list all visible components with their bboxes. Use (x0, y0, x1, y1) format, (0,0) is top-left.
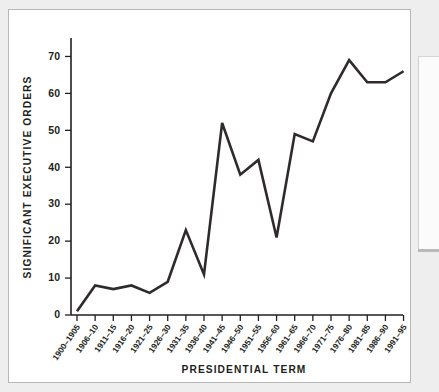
y-axis-tick-label: 30 (48, 197, 60, 209)
y-axis-title: SIGNIFICANT EXECUTIVE ORDERS (22, 76, 33, 279)
y-axis-tick-label: 10 (48, 271, 60, 283)
x-axis-ticks (77, 315, 404, 321)
executive-orders-line (77, 60, 404, 311)
y-axis-tick-label: 0 (54, 308, 60, 320)
page-background: 010203040506070 1900–19051906–101911–151… (0, 0, 439, 392)
y-axis-tick-label: 40 (48, 161, 60, 173)
chart-figure: 010203040506070 1900–19051906–101911–151… (8, 9, 411, 383)
y-axis-tick-labels: 010203040506070 (48, 50, 60, 321)
x-axis-tick-labels: 1900–19051906–101911–151916–201921–25192… (50, 322, 409, 362)
y-axis-tick-label: 60 (48, 87, 60, 99)
adjacent-panel-fragment (418, 56, 439, 252)
x-axis-title: PRESIDENTIAL TERM (182, 364, 307, 375)
line-chart: 010203040506070 1900–19051906–101911–151… (9, 10, 412, 384)
plot-area: 010203040506070 1900–19051906–101911–151… (9, 10, 412, 384)
y-axis-tick-label: 20 (48, 234, 60, 246)
y-axis-tick-label: 50 (48, 124, 60, 136)
y-axis-ticks (65, 56, 71, 315)
adjacent-panel-divider (418, 249, 439, 252)
y-axis-tick-label: 70 (48, 50, 60, 62)
